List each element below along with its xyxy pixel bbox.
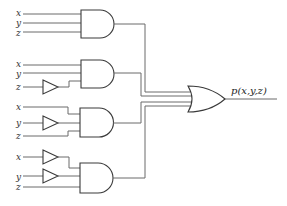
input-label-y: y xyxy=(15,118,22,128)
input-label-y: y xyxy=(15,18,22,28)
and-gate-1 xyxy=(81,10,114,38)
and-gate-3 xyxy=(80,108,113,137)
inverter-x xyxy=(43,150,58,164)
wire-g1-out xyxy=(114,24,191,92)
wire-g2-out xyxy=(114,73,191,96)
input-label-z: z xyxy=(15,131,21,141)
output-label: p(x,y,z) xyxy=(231,85,267,96)
inverter-z xyxy=(43,80,58,94)
input-label-x: x xyxy=(16,8,21,18)
or-gate-group: p(x,y,z) xyxy=(188,85,277,112)
input-label-z: z xyxy=(15,182,21,192)
or-gate xyxy=(188,86,225,112)
inverter-y xyxy=(43,116,58,130)
wire-g3-out xyxy=(113,102,191,123)
inverter-y xyxy=(43,169,58,183)
and-gate-2-group: x y z xyxy=(15,59,191,96)
and-gate-2 xyxy=(81,60,114,88)
input-label-y: y xyxy=(15,172,22,182)
wire-x-inv xyxy=(58,157,80,168)
and-gate-3-group: x y z xyxy=(15,102,191,141)
and-gate-4 xyxy=(80,163,113,193)
wire-g4-out xyxy=(113,106,191,178)
input-label-x: x xyxy=(16,102,21,112)
input-label-x: x xyxy=(16,152,21,162)
input-label-z: z xyxy=(15,28,21,38)
logic-circuit-diagram: x y z x y z x y z x y z xyxy=(0,0,287,206)
input-label-z: z xyxy=(15,82,21,92)
input-label-x: x xyxy=(16,59,21,69)
wire-z xyxy=(23,131,80,136)
input-label-y: y xyxy=(15,69,22,79)
wire-z-inv xyxy=(58,81,81,87)
wire-x xyxy=(23,107,80,114)
